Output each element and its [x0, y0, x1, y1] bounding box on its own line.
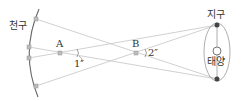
angle-arc-a	[77, 49, 79, 57]
sun-label: 태양	[207, 57, 225, 67]
star-b-marker	[134, 51, 138, 55]
angle-b-label: 2″	[148, 48, 158, 58]
sight-lines	[29, 19, 217, 86]
star-a-marker	[58, 51, 62, 55]
earth-label: 지구	[207, 10, 225, 20]
parallax-diagram	[0, 0, 242, 101]
celestial-sphere-label: 천구	[9, 21, 27, 31]
earth-top-icon	[215, 23, 220, 28]
star-a-label: A	[56, 39, 63, 49]
star-b-label: B	[132, 39, 139, 49]
angle-a-label: 1″	[74, 59, 84, 69]
earth-bottom-icon	[215, 77, 220, 82]
sun-icon	[213, 47, 221, 55]
